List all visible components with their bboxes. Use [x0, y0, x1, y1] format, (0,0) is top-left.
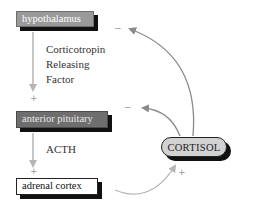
node-anterior-pituitary: anterior pituitary — [16, 111, 108, 128]
sign-plus-pituitary: + — [30, 93, 38, 103]
acth-label: ACTH — [46, 142, 76, 157]
node-anterior-pituitary-label: anterior pituitary — [22, 114, 93, 125]
sign-plus-cortisol: + — [178, 167, 186, 177]
node-hypothalamus: hypothalamus — [16, 11, 94, 27]
node-adrenal-cortex: adrenal cortex — [16, 178, 98, 195]
arrow-cortisol-to-pituitary — [143, 108, 180, 136]
arrow-cortisol-to-hypothalamus — [130, 29, 194, 136]
crf-label-line-1: Corticotropin — [46, 42, 105, 57]
crf-label: Corticotropin Releasing Factor — [46, 42, 105, 87]
arrow-adrenal-to-cortisol — [115, 166, 175, 194]
node-hypothalamus-label: hypothalamus — [22, 14, 81, 25]
sign-minus-hypothalamus: − — [114, 23, 122, 33]
node-cortisol-label: CORTISOL — [167, 142, 220, 153]
sign-minus-pituitary: − — [124, 102, 132, 112]
hpa-diagram: hypothalamus anterior pituitary adrenal … — [0, 0, 257, 213]
sign-plus-adrenal: + — [30, 166, 38, 176]
crf-label-line-3: Factor — [46, 72, 105, 87]
crf-label-line-2: Releasing — [46, 57, 105, 72]
node-adrenal-cortex-label: adrenal cortex — [22, 181, 82, 192]
node-cortisol: CORTISOL — [161, 137, 227, 157]
